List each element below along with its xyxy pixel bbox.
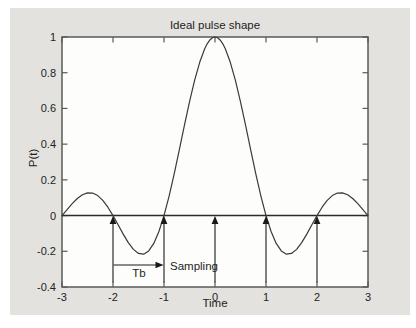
sampling-annotation-label: Sampling <box>170 260 218 272</box>
y-tick-label: 0.8 <box>18 67 56 79</box>
x-tick-label: 1 <box>263 291 269 303</box>
tb-annotation-label: Tb <box>132 267 145 279</box>
chart-title: Ideal pulse shape <box>170 19 260 31</box>
y-tick-label: -0.4 <box>18 281 56 293</box>
page: Ideal pulse shape P(t) Time Tb Sampling … <box>0 0 416 328</box>
x-tick-label: -1 <box>159 291 169 303</box>
x-tick-label: 2 <box>314 291 320 303</box>
y-tick-label: 0.4 <box>18 138 56 150</box>
plot-canvas <box>0 0 416 328</box>
y-tick-label: 0.6 <box>18 102 56 114</box>
y-tick-label: 0.2 <box>18 174 56 186</box>
x-tick-label: 0 <box>212 291 218 303</box>
x-tick-label: -2 <box>108 291 118 303</box>
y-axis-label: P(t) <box>27 149 39 168</box>
y-tick-label: 0 <box>18 210 56 222</box>
y-tick-label: 1 <box>18 31 56 43</box>
y-tick-label: -0.2 <box>18 245 56 257</box>
x-tick-label: -3 <box>57 291 67 303</box>
x-tick-label: 3 <box>365 291 371 303</box>
